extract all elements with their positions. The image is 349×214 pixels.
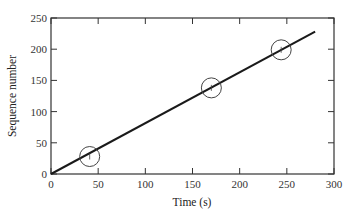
x-axis-label: Time (s) (173, 196, 212, 209)
y-axis-ticks: 050100150200250 (31, 12, 335, 180)
plot-area (51, 32, 315, 174)
x-tick-label: 150 (184, 178, 201, 190)
x-tick-label: 50 (93, 178, 105, 190)
x-tick-label: 0 (48, 178, 54, 190)
x-tick-label: 100 (137, 178, 154, 190)
x-axis-ticks: 050100150200250300 (48, 18, 343, 190)
y-tick-label: 200 (31, 43, 48, 55)
y-tick-label: 0 (42, 168, 48, 180)
y-tick-label: 250 (31, 12, 48, 24)
y-axis-label: Sequence number (6, 55, 19, 137)
y-tick-label: 100 (31, 106, 48, 118)
x-tick-label: 300 (326, 178, 343, 190)
x-tick-label: 250 (279, 178, 296, 190)
fit-line (51, 32, 315, 174)
y-tick-label: 50 (36, 137, 48, 149)
chart: 050100150200250300 050100150200250 Time … (0, 0, 349, 214)
y-tick-label: 150 (31, 74, 48, 86)
x-tick-label: 200 (231, 178, 248, 190)
